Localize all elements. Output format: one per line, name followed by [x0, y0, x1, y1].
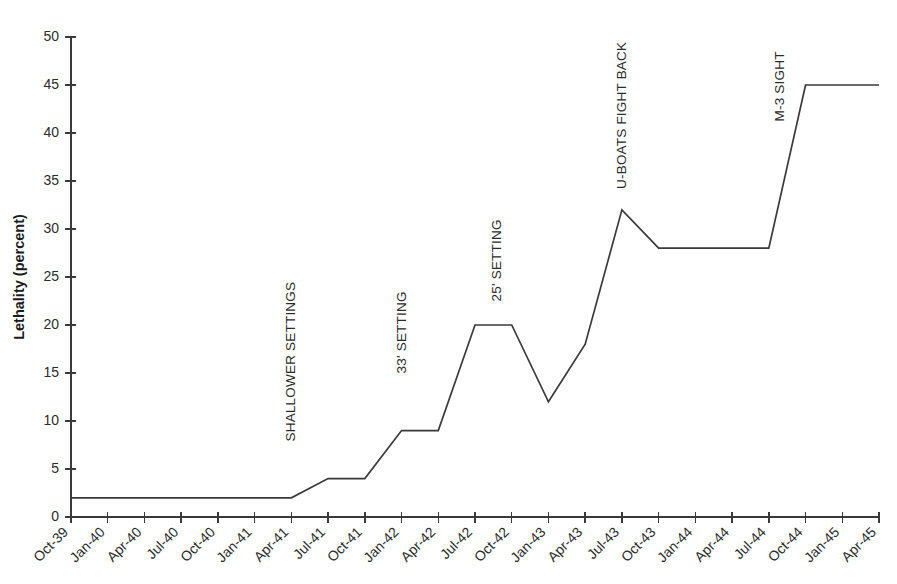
line-chart-canvas: 05101520253035404550 Oct-39Jan-40Apr-40J…: [0, 0, 897, 584]
x-tick-label: Apr-41: [250, 524, 291, 565]
x-tick-label: Jul-40: [143, 524, 181, 562]
y-tick-label: 50: [43, 28, 59, 44]
chart-annotation: 33' SETTING: [394, 291, 409, 373]
x-tick-label: Jan-40: [66, 524, 108, 566]
lethality-line: [71, 85, 879, 498]
y-tick-label: 35: [43, 172, 59, 188]
x-tick-label: Jul-44: [731, 524, 769, 562]
y-tick-label: 0: [51, 508, 59, 524]
x-tick-label: Oct-42: [471, 524, 512, 565]
x-tick-label: Jan-44: [654, 524, 696, 566]
x-tick-label: Jul-41: [290, 524, 328, 562]
x-tick-label: Apr-45: [838, 524, 879, 565]
y-tick-label: 20: [43, 316, 59, 332]
chart-annotation: 25' SETTING: [489, 219, 504, 301]
x-tick-label: Apr-42: [397, 524, 438, 565]
x-tick-label: Oct-39: [30, 524, 71, 565]
y-tick-label: 40: [43, 124, 59, 140]
x-tick-label: Jan-43: [507, 524, 549, 566]
x-tick-label: Oct-40: [177, 524, 218, 565]
x-tick-label: Apr-44: [691, 524, 732, 565]
x-tick-label: Oct-43: [618, 524, 659, 565]
x-tick-label: Jan-42: [360, 524, 402, 566]
y-axis: 05101520253035404550: [43, 28, 76, 524]
y-tick-label: 30: [43, 220, 59, 236]
x-tick-label: Jan-45: [801, 524, 843, 566]
x-axis: Oct-39Jan-40Apr-40Jul-40Oct-40Jan-41Apr-…: [30, 512, 879, 565]
y-tick-label: 5: [51, 460, 59, 476]
x-tick-label: Jul-43: [584, 524, 622, 562]
data-series-lethality: [71, 85, 879, 498]
chart-annotation: U-BOATS FIGHT BACK: [614, 42, 629, 189]
y-tick-label: 10: [43, 412, 59, 428]
chart-annotation: M-3 SIGHT: [772, 51, 787, 121]
y-tick-label: 15: [43, 364, 59, 380]
x-tick-label: Jul-42: [437, 524, 475, 562]
y-axis-title: Lethality (percent): [11, 214, 27, 340]
y-tick-label: 25: [43, 268, 59, 284]
y-tick-label: 45: [43, 76, 59, 92]
x-tick-label: Jan-41: [213, 524, 255, 566]
x-tick-label: Apr-40: [104, 524, 145, 565]
x-tick-label: Oct-41: [324, 524, 365, 565]
chart-figure: 05101520253035404550 Oct-39Jan-40Apr-40J…: [0, 0, 897, 584]
annotation-labels: SHALLOWER SETTINGS33' SETTING25' SETTING…: [283, 42, 786, 442]
x-tick-label: Oct-44: [765, 524, 806, 565]
x-tick-label: Apr-43: [544, 524, 585, 565]
chart-annotation: SHALLOWER SETTINGS: [283, 282, 298, 442]
